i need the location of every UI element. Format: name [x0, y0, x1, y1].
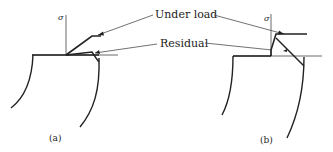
leader-under-load-b	[214, 15, 284, 34]
leader-residual-a	[95, 44, 157, 53]
residual-curve-a	[66, 52, 99, 62]
caption-a: (a)	[49, 133, 61, 143]
arrowhead-under-load-a	[98, 32, 104, 36]
arrowhead-residual-b	[283, 49, 287, 52]
right-profile-a	[80, 58, 99, 127]
left-profile-b	[222, 56, 233, 115]
under-load-curve-b	[271, 34, 307, 56]
leader-under-load-a	[98, 15, 153, 35]
label-under-load: Under load	[155, 8, 217, 21]
callouts: Under load Residual	[95, 8, 284, 54]
caption-b: (b)	[260, 135, 273, 145]
label-residual: Residual	[160, 37, 209, 50]
sigma-label-a: σ	[58, 13, 64, 22]
stress-diagram-figure: σ (a) Under load Residual	[0, 0, 333, 152]
leader-residual-b	[205, 43, 272, 50]
right-profile-b	[287, 57, 304, 138]
diagram-canvas: σ (a) Under load Residual	[0, 0, 333, 152]
sigma-label-b: σ	[264, 14, 270, 23]
residual-curve-b	[276, 38, 304, 66]
panel-b: σ (b)	[222, 14, 322, 145]
left-profile-a	[11, 55, 33, 108]
arrowhead-residual-a	[95, 50, 100, 54]
under-load-curve-a	[66, 36, 101, 55]
